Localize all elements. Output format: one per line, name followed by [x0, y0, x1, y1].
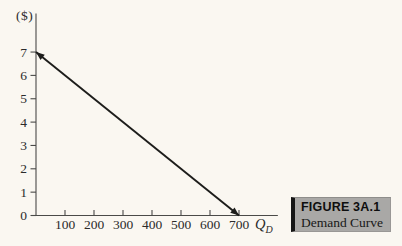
x-axis-label: QD	[255, 216, 273, 233]
demand-line	[36, 52, 239, 215]
x-tick-label: 400	[142, 217, 163, 232]
y-tick-label: 7	[20, 45, 27, 60]
textbook-figure-page: 01234567100200300400500600700 ($) QD FIG…	[0, 0, 402, 246]
y-axis-label: ($)	[16, 8, 33, 24]
y-tick-label: 4	[20, 115, 27, 130]
y-tick-label: 3	[20, 138, 27, 153]
x-tick-label: 600	[200, 217, 221, 232]
figure-number: FIGURE 3A.1	[301, 200, 390, 215]
y-tick-label: 0	[20, 208, 27, 223]
figure-title: Demand Curve	[301, 215, 390, 231]
x-tick-label: 300	[113, 217, 134, 232]
x-tick-label: 100	[55, 217, 76, 232]
y-tick-label: 1	[20, 185, 27, 200]
x-tick-label: 700	[229, 217, 250, 232]
x-tick-label: 500	[171, 217, 192, 232]
y-tick-label: 5	[20, 91, 27, 106]
x-tick-label: 200	[84, 217, 105, 232]
x-axis-label-main: Q	[255, 216, 265, 232]
figure-label-box: FIGURE 3A.1 Demand Curve	[291, 197, 391, 232]
y-tick-label: 6	[20, 68, 27, 83]
x-axis-label-subscript: D	[265, 224, 272, 235]
y-tick-label: 2	[20, 161, 27, 176]
